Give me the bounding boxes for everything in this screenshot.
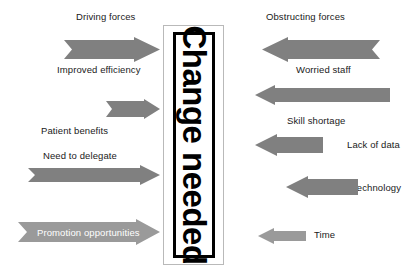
obstructing-arrow-skill-shortage	[255, 85, 390, 105]
driving-label-promotion-opportunities: Promotion opportunities	[37, 227, 140, 238]
driving-arrow-improved-efficiency	[64, 37, 160, 62]
obstructing-label-skill-shortage: Skill shortage	[287, 115, 345, 126]
driving-forces-heading: Driving forces	[76, 11, 135, 22]
obstructing-label-technology: Technology	[352, 182, 401, 193]
obstructing-arrow-worried-staff	[262, 37, 380, 62]
driving-label-improved-efficiency: Improved efficiency	[57, 64, 141, 75]
obstructing-arrow-technology	[286, 176, 358, 198]
obstructing-arrow-lack-of-data	[255, 134, 323, 156]
driving-arrow-need-to-delegate	[28, 165, 160, 185]
obstructing-label-time: Time	[314, 229, 335, 240]
force-field-diagram: Driving forces Obstructing forces Change…	[0, 0, 412, 280]
driving-arrow-patient-benefits	[106, 99, 160, 119]
obstructing-arrow-time	[258, 228, 306, 244]
driving-label-patient-benefits: Patient benefits	[41, 125, 108, 136]
obstructing-label-lack-of-data: Lack of data	[347, 139, 400, 150]
obstructing-label-worried-staff: Worried staff	[296, 64, 351, 75]
driving-label-need-to-delegate: Need to delegate	[43, 150, 117, 161]
center-box-inner	[173, 32, 215, 258]
obstructing-forces-heading: Obstructing forces	[266, 11, 345, 22]
